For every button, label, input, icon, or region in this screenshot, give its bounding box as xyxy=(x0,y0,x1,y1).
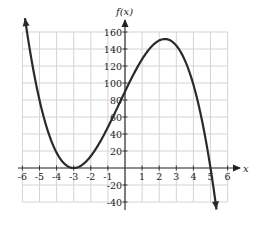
x-tick-label: 1 xyxy=(139,171,145,182)
x-axis-label: x xyxy=(243,163,249,174)
x-tick-label: 6 xyxy=(225,171,231,182)
x-tick-label: 2 xyxy=(156,171,162,182)
y-tick-label: 120 xyxy=(104,61,122,72)
y-tick-label: 40 xyxy=(110,129,122,140)
x-tick-label: -6 xyxy=(18,171,27,182)
y-tick-label: -40 xyxy=(107,197,122,208)
cubic-function-graph: -6-5-4-3-2-112345616014012010080604020-2… xyxy=(0,0,263,228)
y-tick-label: 20 xyxy=(110,146,122,157)
x-tick-label: 3 xyxy=(173,171,179,182)
y-axis-label: f(x) xyxy=(115,6,133,17)
x-tick-label: -2 xyxy=(86,171,95,182)
y-tick-label: 160 xyxy=(104,27,122,38)
x-tick-label: -5 xyxy=(35,171,44,182)
y-tick-label: 140 xyxy=(104,44,122,55)
x-tick-label: -3 xyxy=(69,171,78,182)
x-tick-label: 4 xyxy=(190,171,196,182)
x-tick-label: -4 xyxy=(52,171,61,182)
y-tick-label: 100 xyxy=(104,78,122,89)
y-tick-label: -20 xyxy=(107,180,122,191)
